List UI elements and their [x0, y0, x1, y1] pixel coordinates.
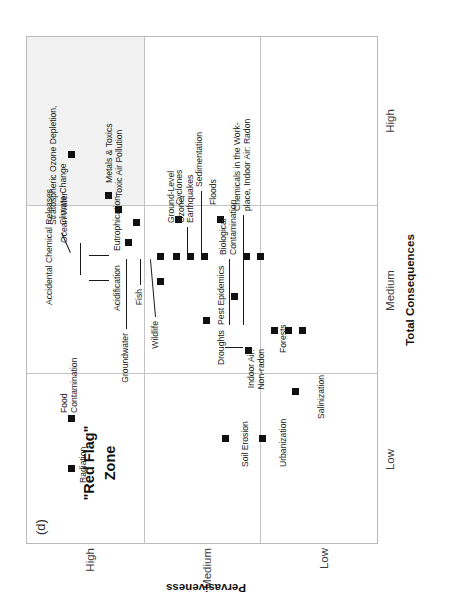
label-indoor-air: Indoor Air: Non-radon — [247, 349, 266, 423]
leader-line-groundwater — [126, 259, 127, 329]
label-salinization: Salinization — [317, 375, 327, 419]
leader-line-biological-contamination — [229, 259, 230, 325]
label-groundwater: Groundwater — [121, 333, 131, 395]
leader-line-sedimentation — [201, 191, 202, 253]
label-toxic-air-pollution: Toxic Air Pollution — [115, 130, 125, 197]
leader-line-ground-level-ozone — [187, 227, 188, 253]
gridline-horizontal-2 — [260, 37, 261, 543]
marker-chemicals-workplace — [299, 327, 306, 334]
label-fish: Fish — [135, 289, 145, 325]
label-sedimentation: Sedimentation — [195, 132, 205, 187]
xaxis-title: Total Consequences — [404, 36, 416, 544]
marker-ocean-water — [133, 219, 140, 226]
yaxis-title: Pervasiveness — [166, 582, 246, 594]
gridline-vertical-2 — [27, 205, 377, 206]
label-food-contamination: Food Contamination — [60, 358, 79, 413]
marker-food-contamination — [68, 415, 75, 422]
plot-area: (d) "Red Flag" Zone — [26, 36, 378, 544]
label-ground-level-ozone: Ground-Level Ozone, Earthquakes — [167, 171, 196, 223]
leader-line-eutrophication — [89, 255, 109, 256]
marker-sedimentation — [257, 253, 264, 260]
marker-pest-epidemics — [231, 293, 238, 300]
marker-fish — [187, 253, 194, 260]
xtick-high: High — [384, 36, 396, 206]
red-flag-line-2: Zone — [102, 446, 118, 481]
marker-droughts — [203, 317, 210, 324]
label-acidification: Acidification — [113, 265, 123, 311]
label-radiation: Radiation — [79, 447, 89, 483]
marker-strat-ozone — [68, 151, 75, 158]
label-wildlife: Wildlife — [151, 321, 161, 379]
label-eutrophication: Eutrophication — [113, 196, 123, 251]
panel-tag: (d) — [33, 519, 48, 535]
ytick-high: High — [84, 548, 96, 608]
label-accidental-chem: Accidental Chemical Releases — [45, 189, 55, 305]
label-ocean-water: Ocean Water — [60, 193, 70, 243]
leader-line-wildlife — [150, 259, 156, 317]
marker-salinization — [292, 388, 299, 395]
ytick-medium: Medium — [201, 548, 213, 608]
marker-soil-erosion — [222, 435, 229, 442]
label-pest-epidemics: Pest Epidemics — [217, 266, 227, 325]
label-soil-erosion: Soil Erosion — [241, 421, 251, 467]
marker-acidification — [157, 278, 164, 285]
marker-metals-toxics — [105, 192, 112, 199]
marker-ground-level-ozone — [243, 253, 250, 260]
label-droughts: Droughts — [217, 330, 227, 365]
leader-line-indoor-air — [225, 347, 243, 348]
marker-eutrophication — [157, 253, 164, 260]
ytick-low: Low — [318, 548, 330, 608]
marker-forests — [271, 327, 278, 334]
marker-wildlife — [201, 253, 208, 260]
marker-accidental-chem — [125, 239, 132, 246]
label-floods: Floods — [209, 179, 219, 205]
scatter-chart-figure: (d) "Red Flag" Zone — [0, 0, 460, 608]
label-urbanization: Urbanization — [279, 419, 289, 467]
marker-urbanization — [259, 435, 266, 442]
marker-groundwater — [173, 253, 180, 260]
shaded-quadrant — [27, 37, 144, 206]
xtick-low: Low — [384, 375, 396, 544]
label-chemicals-workplace: Chemicals in the Work- place, Indoor Air… — [233, 119, 252, 211]
marker-radiation — [68, 465, 75, 472]
leader-line-chemicals-workplace — [243, 215, 244, 325]
label-forests: Forests — [279, 324, 289, 353]
leader-line-accidental-chem — [80, 243, 81, 275]
figure-page: (d) "Red Flag" Zone — [0, 0, 460, 608]
label-radiation-text: Radiation — [78, 447, 88, 483]
xtick-medium: Medium — [384, 206, 396, 375]
leader-line-acidification — [89, 280, 109, 281]
leader-line-fish — [140, 259, 141, 285]
